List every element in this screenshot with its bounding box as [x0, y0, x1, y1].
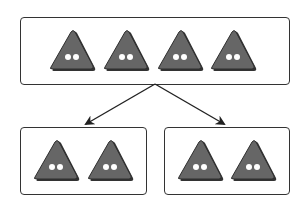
- triangle-button-icon: [104, 31, 149, 72]
- triangle-button-icon: [211, 31, 256, 72]
- diagram-canvas: [0, 0, 306, 209]
- split-arrow-right: [155, 84, 224, 124]
- triangle-button-icon: [34, 141, 79, 182]
- split-arrow-left: [86, 84, 155, 124]
- triangle-button-icon: [88, 141, 133, 182]
- triangle-button-icon: [231, 141, 276, 182]
- triangle-button-icon: [158, 31, 203, 72]
- triangle-button-icon: [178, 141, 223, 182]
- triangle-button-icon: [50, 31, 95, 72]
